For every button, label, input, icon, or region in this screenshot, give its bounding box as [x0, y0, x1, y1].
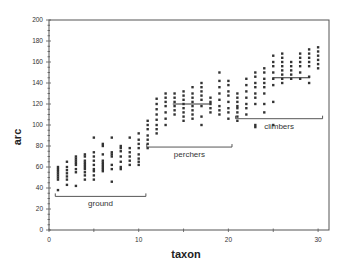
data-point: [75, 157, 77, 159]
data-point: [254, 86, 256, 88]
data-point: [57, 178, 59, 180]
data-point: [191, 97, 193, 99]
data-point: [236, 111, 238, 113]
data-point: [191, 118, 193, 120]
data-point: [93, 174, 95, 176]
data-point: [102, 160, 104, 162]
data-point: [138, 157, 140, 159]
group-label-ground: ground: [88, 199, 113, 208]
data-point: [57, 166, 59, 168]
data-point: [236, 115, 238, 117]
data-point: [66, 172, 68, 174]
data-point: [218, 113, 220, 115]
data-point: [209, 111, 211, 113]
data-point: [191, 109, 193, 111]
data-point: [164, 97, 166, 99]
data-point: [129, 160, 131, 162]
data-point: [138, 161, 140, 163]
y-tick-label: 100: [32, 121, 43, 128]
data-point: [218, 109, 220, 111]
data-point: [111, 151, 113, 153]
x-tick-label: 0: [47, 236, 51, 243]
data-point: [84, 155, 86, 157]
data-point: [263, 86, 265, 88]
data-point: [245, 90, 247, 92]
data-point: [57, 168, 59, 170]
data-point: [57, 174, 59, 176]
data-point: [191, 86, 193, 88]
data-point: [129, 164, 131, 166]
data-point: [254, 92, 256, 94]
data-point: [290, 69, 292, 71]
data-point: [290, 73, 292, 75]
data-point: [102, 166, 104, 168]
data-point: [93, 170, 95, 172]
data-point: [66, 166, 68, 168]
data-point: [254, 76, 256, 78]
data-point: [200, 82, 202, 84]
data-point: [200, 115, 202, 117]
data-point: [93, 136, 95, 138]
data-point: [120, 150, 122, 152]
data-point: [84, 153, 86, 155]
data-point: [209, 97, 211, 99]
data-point: [182, 90, 184, 92]
data-point: [173, 101, 175, 103]
data-point: [84, 178, 86, 180]
data-point: [120, 147, 122, 149]
data-point: [102, 145, 104, 147]
scatter-chart: 020406080100120140160180200 0102030 grou…: [0, 0, 344, 271]
data-point: [218, 86, 220, 88]
data-point: [155, 119, 157, 121]
data-point: [236, 92, 238, 94]
data-point: [272, 101, 274, 103]
data-point: [200, 90, 202, 92]
data-point: [75, 162, 77, 164]
data-point: [111, 168, 113, 170]
data-point: [227, 84, 229, 86]
data-point: [155, 132, 157, 134]
group-label-climbers: climbers: [264, 122, 294, 131]
data-point: [120, 166, 122, 168]
data-point: [263, 78, 265, 80]
data-point: [218, 80, 220, 82]
data-point: [245, 78, 247, 80]
data-point: [102, 168, 104, 170]
data-point: [164, 101, 166, 103]
data-point: [290, 61, 292, 63]
data-point: [254, 126, 256, 128]
data-point: [281, 82, 283, 84]
group-label-perchers: perchers: [174, 150, 205, 159]
y-tick-label: 0: [39, 226, 43, 233]
data-point: [281, 61, 283, 63]
data-point: [218, 99, 220, 101]
data-point: [218, 92, 220, 94]
data-point: [182, 107, 184, 109]
data-point: [155, 103, 157, 105]
data-point: [173, 105, 175, 107]
data-point: [84, 166, 86, 168]
data-point: [182, 99, 184, 101]
data-point: [75, 160, 77, 162]
data-point: [164, 105, 166, 107]
data-point: [120, 161, 122, 163]
data-point: [155, 113, 157, 115]
data-point: [281, 65, 283, 67]
data-point: [227, 111, 229, 113]
data-point: [200, 105, 202, 107]
data-point: [138, 132, 140, 134]
data-point: [120, 145, 122, 147]
data-point: [200, 94, 202, 96]
data-point: [138, 164, 140, 166]
y-tick-label: 120: [32, 100, 43, 107]
x-tick-label: 20: [225, 236, 233, 243]
data-point: [245, 97, 247, 99]
data-point: [173, 92, 175, 94]
data-point: [299, 71, 301, 73]
data-point: [93, 168, 95, 170]
data-point: [227, 80, 229, 82]
data-point: [102, 162, 104, 164]
data-point: [102, 170, 104, 172]
y-tick-label: 40: [36, 184, 44, 191]
data-point: [182, 94, 184, 96]
